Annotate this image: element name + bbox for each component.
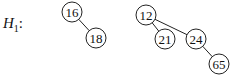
node-value: 16	[66, 5, 80, 20]
edge	[152, 23, 159, 31]
node-value: 65	[213, 57, 226, 72]
tree-1: 12212465	[136, 5, 229, 74]
node-value: 18	[90, 31, 103, 46]
edge	[79, 19, 89, 30]
edge	[203, 46, 212, 56]
node-value: 12	[140, 8, 153, 23]
node-value: 24	[190, 32, 204, 47]
binomial-heap-diagram: 161812212465	[0, 0, 233, 76]
tree-0: 1618	[62, 2, 106, 48]
node-value: 21	[159, 32, 172, 47]
